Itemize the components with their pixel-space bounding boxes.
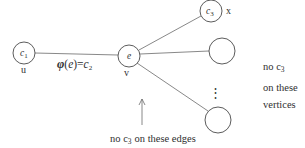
edge-v-x (139, 16, 201, 50)
edge-v-bottom (137, 63, 208, 111)
note-edges: no c3on these edges (110, 133, 196, 146)
svg-text:on these: on these (263, 82, 298, 93)
vertical-ellipsis: ⋮ (209, 85, 222, 100)
node-bottom-circle (205, 107, 231, 133)
edge-u-v (35, 53, 118, 55)
note-vertices: no c3 on these vertices (263, 61, 298, 110)
node-v-inner: e (127, 51, 131, 61)
edge-v-mid (140, 51, 209, 54)
up-arrow (139, 99, 145, 125)
svg-text:no c3: no c3 (263, 61, 285, 74)
node-v-label: v (124, 67, 129, 78)
svg-text:vertices: vertices (263, 99, 296, 110)
node-u-label: u (21, 64, 26, 75)
edge-color-label: φ(e)=c2 (57, 57, 93, 72)
graph-diagram: c1 u e v c3 x φ(e)=c2 ⋮ no c3 on these v… (0, 0, 305, 148)
node-x-label: x (226, 5, 231, 16)
diagram-svg: c1 u e v c3 x φ(e)=c2 ⋮ no c3 on these v… (0, 0, 305, 148)
node-mid-circle (209, 38, 235, 64)
